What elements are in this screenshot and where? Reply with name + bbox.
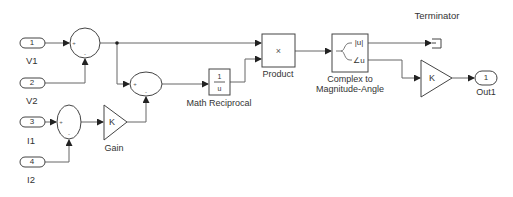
product-symbol: ×: [276, 47, 281, 56]
inport-2-number: 2: [30, 79, 34, 87]
branch-point: [115, 41, 119, 45]
c2ma-label-line1: Complex to: [327, 75, 373, 84]
gain1-label: Gain: [104, 144, 123, 153]
sum1-plus-sign: +: [72, 40, 76, 46]
inport-4-number: 4: [30, 158, 34, 166]
inport-1-number: 1: [30, 39, 34, 47]
sum1-minus-sign: -: [84, 51, 86, 57]
wire-in4-sum2[interactable]: [45, 140, 69, 162]
reciprocal-denominator: u: [218, 85, 222, 92]
gain-block-2[interactable]: [421, 60, 452, 97]
wire-reciprocal-product[interactable]: [230, 59, 261, 82]
c2ma-label-line2: Magnitude-Angle: [316, 85, 384, 94]
inport-4-label: I2: [27, 175, 35, 185]
outport-1-label: Out1: [476, 88, 496, 97]
sum3-plus-sign: +: [133, 81, 137, 87]
sum2-plus-sign: +: [59, 119, 63, 125]
inport-1-label: V1: [26, 56, 38, 66]
sum3-minus-sign: -: [145, 89, 147, 95]
wire-in2-sum1[interactable]: [45, 59, 85, 83]
gain-block-1[interactable]: [104, 105, 127, 140]
diagram-canvas: [0, 0, 513, 197]
inport-3-number: 3: [30, 118, 34, 126]
gain1-symbol: K: [109, 118, 115, 127]
wire-branch-sum3[interactable]: [117, 43, 129, 84]
inport-2-label: V2: [26, 96, 38, 106]
product-label: Product: [262, 70, 293, 79]
reciprocal-label: Math Reciprocal: [186, 99, 251, 108]
c2ma-magnitude-port: |u|: [355, 39, 364, 47]
outport-1-number: 1: [484, 74, 488, 82]
sum2-minus-sign: -: [68, 131, 70, 137]
wire-gain1-sum3[interactable]: [127, 97, 146, 122]
reciprocal-numerator: 1: [218, 73, 222, 80]
gain2-symbol: K: [429, 74, 435, 83]
inport-3-label: I1: [27, 136, 35, 146]
wire-c2ma-gain2[interactable]: [368, 60, 420, 78]
terminator-label: Terminator: [415, 11, 460, 21]
c2ma-angle-port: ∠u: [353, 57, 364, 65]
